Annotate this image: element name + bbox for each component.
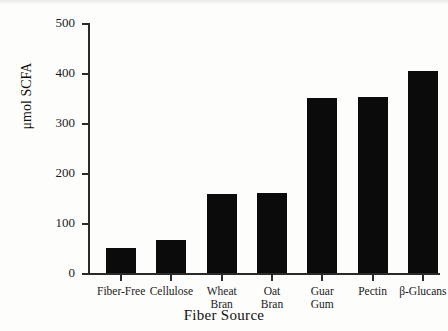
x-axis-tick <box>422 275 424 281</box>
y-axis-tick-label: 300 <box>56 116 76 129</box>
y-axis-line <box>88 23 90 274</box>
y-axis-tick: 400 <box>82 73 88 75</box>
bar <box>408 71 438 273</box>
bar <box>307 98 337 273</box>
scan-edge-band <box>0 0 448 5</box>
x-axis-tick <box>120 275 122 281</box>
x-axis-tick <box>221 275 223 281</box>
x-axis-tick <box>321 275 323 281</box>
x-axis-tick-label-line: β-Glucans <box>384 285 448 298</box>
y-axis-title-text: μmol SCFA <box>19 52 35 140</box>
x-axis-tick <box>170 275 172 281</box>
y-axis-tick: 0 <box>82 273 88 275</box>
y-axis-tick-label: 400 <box>56 66 76 79</box>
bar <box>207 194 237 273</box>
y-axis-tick: 200 <box>82 173 88 175</box>
x-axis-tick <box>372 275 374 281</box>
x-axis-tick-label: β-Glucans <box>384 285 448 298</box>
y-axis-tick: 500 <box>82 23 88 25</box>
y-axis-tick-label: 100 <box>56 216 76 229</box>
bar <box>257 193 287 273</box>
plot-area: 0100200300400500 Fiber-FreeCelluloseWhea… <box>88 23 440 273</box>
chart-figure: μmol SCFA 0100200300400500 Fiber-FreeCel… <box>0 0 448 331</box>
x-axis-line <box>88 273 440 275</box>
y-axis-tick: 300 <box>82 123 88 125</box>
y-axis-tick-label: 500 <box>56 16 76 29</box>
bar <box>106 248 136 273</box>
bar <box>358 97 388 273</box>
bar <box>156 240 186 274</box>
y-axis-tick: 100 <box>82 223 88 225</box>
x-axis-tick <box>271 275 273 281</box>
y-axis-tick-label: 200 <box>56 166 76 179</box>
x-axis-title: Fiber Source <box>0 307 448 324</box>
y-axis-tick-label: 0 <box>69 266 76 279</box>
